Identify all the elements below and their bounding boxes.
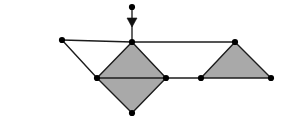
figure-root — [0, 0, 288, 129]
vertex-triangle-bottom-right — [268, 75, 274, 81]
vertex-left-end-node — [59, 37, 65, 43]
face-rhombus-lower-triangle — [97, 78, 166, 113]
vertex-rhombus-bottom — [129, 110, 135, 116]
face-right-triangle — [201, 42, 271, 78]
vertex-rhombus-top — [129, 39, 135, 45]
vertex-triangle-bottom-left — [198, 75, 204, 81]
arrow-head-icon — [127, 18, 137, 27]
load-arrow — [127, 7, 137, 42]
edge-left-end-to-rhombus-left — [62, 40, 97, 78]
vertex-arrow-tail-node — [129, 4, 135, 10]
vertex-triangle-apex — [232, 39, 238, 45]
mesh-diagram-svg — [0, 0, 288, 129]
vertex-rhombus-left — [94, 75, 100, 81]
vertex-rhombus-right — [163, 75, 169, 81]
face-rhombus-upper-triangle — [97, 42, 166, 78]
edge-left-end-to-apex — [62, 40, 132, 42]
